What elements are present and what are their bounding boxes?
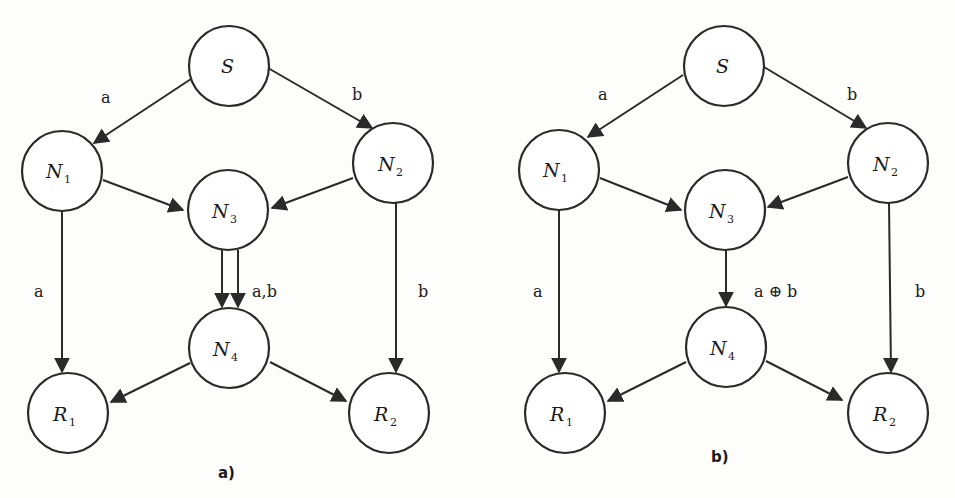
edge-n1-n3 <box>600 178 681 210</box>
svg-text:2: 2 <box>891 166 898 179</box>
svg-text:2: 2 <box>889 416 896 429</box>
svg-text:R: R <box>872 403 887 425</box>
edge-label-n3-n4: a,b <box>252 282 277 301</box>
edge-label-n2-r2: b <box>418 282 428 301</box>
svg-text:N: N <box>45 160 64 182</box>
node-n1: N 1 <box>22 131 102 211</box>
node-n4: N 4 <box>189 308 269 388</box>
svg-text:3: 3 <box>230 213 237 226</box>
svg-text:S: S <box>221 55 234 77</box>
edge-n2-n3 <box>272 178 353 208</box>
node-s: S <box>189 26 269 106</box>
svg-text:1: 1 <box>561 172 568 185</box>
network-coding-figure: a b a b a,b S N 1 N 2 N 3 N 4 <box>0 0 955 498</box>
svg-text:1: 1 <box>69 416 76 429</box>
svg-text:N: N <box>542 159 561 181</box>
node-r1: R 1 <box>525 373 605 453</box>
edge-label-n3-n4: a ⊕ b <box>754 282 797 301</box>
svg-text:1: 1 <box>566 416 573 429</box>
svg-text:N: N <box>709 337 728 359</box>
svg-text:S: S <box>716 55 729 77</box>
edge-label-n1-r1: a <box>533 282 543 301</box>
node-n2: N 2 <box>353 123 433 203</box>
svg-text:R: R <box>373 403 388 425</box>
node-s: S <box>684 26 764 106</box>
node-n3: N 3 <box>188 170 268 250</box>
edge-n2-r2 <box>889 203 891 372</box>
caption-a: a) <box>218 464 235 482</box>
diagram-a: a b a b a,b S N 1 N 2 N 3 N 4 <box>22 26 433 482</box>
node-r2: R 2 <box>349 373 429 453</box>
edge-label-s-n2: b <box>847 85 857 104</box>
svg-text:4: 4 <box>231 351 238 364</box>
svg-text:4: 4 <box>728 350 735 363</box>
caption-b: b) <box>711 448 729 466</box>
edge-label-n2-r2: b <box>915 282 925 301</box>
svg-text:N: N <box>872 153 891 175</box>
edge-n1-n3 <box>103 180 183 210</box>
edge-n4-r2 <box>766 361 842 400</box>
edge-n2-n3 <box>768 177 848 207</box>
svg-text:N: N <box>211 200 230 222</box>
svg-text:N: N <box>212 338 231 360</box>
edge-n4-r1 <box>608 362 686 401</box>
svg-text:2: 2 <box>390 416 397 429</box>
svg-text:1: 1 <box>64 173 71 186</box>
node-n4: N 4 <box>686 307 766 387</box>
svg-text:R: R <box>549 403 564 425</box>
edge-label-s-n1: a <box>598 85 608 104</box>
svg-text:R: R <box>52 403 67 425</box>
edge-n4-r1 <box>111 363 190 402</box>
svg-text:3: 3 <box>727 213 734 226</box>
svg-text:2: 2 <box>396 166 403 179</box>
svg-text:N: N <box>708 200 727 222</box>
edge-label-s-n2: b <box>352 85 362 104</box>
edge-n4-r2 <box>270 362 346 401</box>
edge-label-n1-r1: a <box>34 282 44 301</box>
node-r1: R 1 <box>28 373 108 453</box>
edge-s-n1 <box>94 77 194 143</box>
node-n1: N 1 <box>519 130 599 210</box>
node-n2: N 2 <box>848 123 928 203</box>
diagram-b: a b a b a ⊕ b S N 1 N 2 N 3 N 4 <box>519 26 928 466</box>
node-n3: N 3 <box>685 170 765 250</box>
node-r2: R 2 <box>848 373 928 453</box>
edge-label-s-n1: a <box>101 88 111 107</box>
svg-text:N: N <box>377 153 396 175</box>
